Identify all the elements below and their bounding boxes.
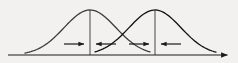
figure-container	[0, 0, 238, 63]
normal-curves-figure	[0, 0, 238, 63]
